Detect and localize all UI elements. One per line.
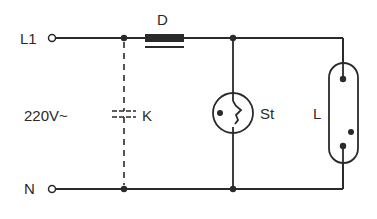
starter-st-icon xyxy=(213,93,253,133)
junction-dot-icon xyxy=(121,35,127,41)
capacitor-k-label: K xyxy=(142,108,152,123)
terminal-n-label: N xyxy=(24,181,35,196)
supply-voltage-label: 220V~ xyxy=(24,108,68,123)
lamp-l-label: L xyxy=(313,106,321,121)
lamp-l-icon xyxy=(329,38,358,189)
terminal-l1-icon xyxy=(49,35,56,42)
choke-d-label: D xyxy=(157,12,168,27)
junction-dot-icon xyxy=(230,35,236,41)
starter-st-label: St xyxy=(260,106,274,121)
choke-d-icon xyxy=(145,34,184,47)
junction-dot-icon xyxy=(121,186,127,192)
terminal-n-icon xyxy=(49,186,56,193)
capacitor-k-icon xyxy=(112,42,136,185)
terminal-l1-label: L1 xyxy=(20,31,37,46)
junction-dot-icon xyxy=(230,186,236,192)
circuit-diagram: L1 N 220V~ D K St L xyxy=(0,0,377,219)
